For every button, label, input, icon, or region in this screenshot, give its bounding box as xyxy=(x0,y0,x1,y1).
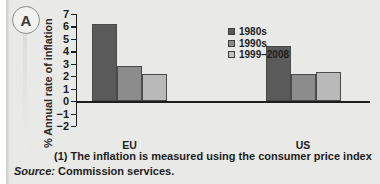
bar-chart: % Annual rate of inflation 76543210−1−2E… xyxy=(44,6,374,142)
figure-panel: A % Annual rate of inflation 76543210−1−… xyxy=(0,0,380,184)
y-axis-tick-label: −2 xyxy=(56,120,69,132)
footnote-note: (1) The inflation is measured using the … xyxy=(14,149,374,164)
y-axis-tick xyxy=(71,14,76,15)
y-axis-tick xyxy=(71,51,76,52)
legend-swatch-icon xyxy=(228,51,235,58)
y-axis-tick-label: 2 xyxy=(63,70,69,82)
legend-swatch-icon xyxy=(228,40,235,47)
y-axis-tick xyxy=(71,89,76,90)
bar xyxy=(316,72,341,101)
y-axis-tick-label: 3 xyxy=(63,58,69,70)
legend-item: 1999–2008 xyxy=(228,49,289,61)
y-axis-tick xyxy=(71,76,76,77)
footnote-source-word: Source: xyxy=(14,165,55,177)
y-axis-tick xyxy=(71,126,76,127)
y-axis-tick-label: −1 xyxy=(56,108,69,120)
footnotes-block: (1) The inflation is measured using the … xyxy=(14,149,374,179)
y-axis-label: % Annual rate of inflation xyxy=(42,16,56,148)
legend-item-label: 1980s xyxy=(239,26,267,38)
y-axis-tick-label: 6 xyxy=(63,20,69,32)
y-axis-tick xyxy=(71,39,76,40)
y-axis-tick xyxy=(71,114,76,115)
zero-axis-line xyxy=(76,101,370,102)
footnote-source-value: Commission services. xyxy=(55,165,174,177)
y-axis-tick-label: 5 xyxy=(63,33,69,45)
bar xyxy=(142,74,167,101)
plot-area: 76543210−1−2EUUSJAPAN xyxy=(76,14,370,126)
footnote-source: Source: Commission services. xyxy=(14,164,374,179)
y-axis-line xyxy=(76,14,77,126)
legend-item-label: 1990s xyxy=(239,38,267,50)
y-axis-tick-label: 1 xyxy=(63,83,69,95)
page-gutter-shadow xyxy=(6,0,10,184)
y-axis-tick-label: 7 xyxy=(63,8,69,20)
y-axis-tick xyxy=(71,101,76,102)
y-axis-tick-label: 4 xyxy=(63,45,69,57)
y-axis-tick-label: 0 xyxy=(63,95,69,107)
legend-item-label: 1999–2008 xyxy=(239,49,289,61)
y-axis-tick xyxy=(71,26,76,27)
legend-item: 1980s xyxy=(228,26,289,38)
panel-badge: A xyxy=(12,6,40,34)
bar xyxy=(291,74,316,101)
badge-tail-decoration xyxy=(23,30,27,150)
legend-item: 1990s xyxy=(228,38,289,50)
legend-swatch-icon xyxy=(228,28,235,35)
y-axis-tick xyxy=(71,64,76,65)
chart-legend: 1980s1990s1999–2008 xyxy=(228,26,289,61)
bar xyxy=(117,66,142,101)
bar xyxy=(92,24,117,101)
